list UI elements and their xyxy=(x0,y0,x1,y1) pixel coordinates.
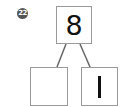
connector-left xyxy=(57,44,66,67)
whole-box: 8 xyxy=(56,6,92,44)
whole-value: 8 xyxy=(65,10,82,41)
part-right-value xyxy=(98,76,101,98)
part-box-right xyxy=(81,67,118,106)
part-box-left[interactable] xyxy=(30,67,68,106)
connector-right xyxy=(80,44,90,67)
